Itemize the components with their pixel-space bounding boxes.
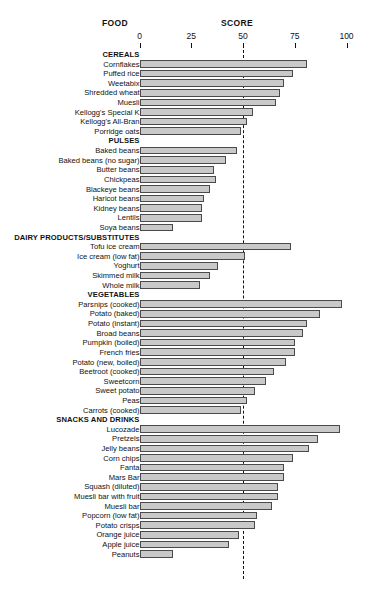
bar-row: Beetroot (cooked) bbox=[0, 367, 371, 377]
bar bbox=[140, 300, 343, 308]
bar-label: French fries bbox=[99, 348, 139, 358]
bar-row: Porridge oats bbox=[0, 127, 371, 137]
bar-row: Skimmed milk bbox=[0, 271, 371, 281]
x-axis-tick-label: 25 bbox=[187, 31, 196, 41]
bar bbox=[140, 262, 219, 270]
group-label: VEGETABLES bbox=[88, 290, 140, 300]
bar-label: Potato (new, boiled) bbox=[72, 358, 139, 368]
bar bbox=[140, 320, 308, 328]
bar bbox=[140, 281, 200, 289]
bar-label: Porridge oats bbox=[94, 127, 139, 137]
bar-row: Potato crisps bbox=[0, 521, 371, 531]
bar bbox=[140, 214, 202, 222]
bar-label: Blackeye beans bbox=[86, 185, 140, 195]
bar-label: Ice cream (low fat) bbox=[77, 252, 139, 262]
bar-row: Sweetcorn bbox=[0, 377, 371, 387]
bar-label: Skimmed milk bbox=[92, 271, 139, 281]
bar-row: Whole milk bbox=[0, 281, 371, 291]
bar bbox=[140, 176, 217, 184]
bar-label: Parsnips (cooked) bbox=[78, 300, 139, 310]
bar bbox=[140, 435, 318, 443]
bar-label: Squash (diluted) bbox=[84, 482, 139, 492]
bar-row: Jelly beans bbox=[0, 444, 371, 454]
bar-label: Sweet potato bbox=[95, 386, 139, 396]
bar bbox=[140, 348, 295, 356]
bar bbox=[140, 60, 308, 68]
bar-row: Pumpkin (boiled) bbox=[0, 338, 371, 348]
bar bbox=[140, 127, 241, 135]
bar-label: Muesli bbox=[118, 98, 140, 108]
group-header-row: VEGETABLES bbox=[0, 290, 371, 300]
x-axis-tick-label: 50 bbox=[238, 31, 247, 41]
bar bbox=[140, 339, 295, 347]
bar-label: Fanta bbox=[120, 463, 139, 473]
bar-label: Orange juice bbox=[96, 530, 139, 540]
bar bbox=[140, 166, 215, 174]
group-label: DAIRY PRODUCTS/SUBSTITUTES bbox=[14, 233, 139, 243]
bar-row: Tofu ice cream bbox=[0, 242, 371, 252]
bar-row: Soya beans bbox=[0, 223, 371, 233]
bar-label: Kidney beans bbox=[93, 204, 139, 214]
bar bbox=[140, 445, 310, 453]
bar-label: Potato crisps bbox=[96, 521, 140, 531]
bar-row: Corn chips bbox=[0, 454, 371, 464]
bar bbox=[140, 541, 229, 549]
bar-row: Lentils bbox=[0, 213, 371, 223]
x-axis-tick-mark bbox=[243, 43, 244, 48]
bar-label: Weetabix bbox=[108, 79, 140, 89]
bar bbox=[140, 118, 248, 126]
bar-row: Shredded wheat bbox=[0, 88, 371, 98]
bar bbox=[140, 79, 285, 87]
group-label: SNACKS AND DRINKS bbox=[56, 415, 139, 425]
bar-row: Haricot beans bbox=[0, 194, 371, 204]
bar-row: Muesli bar bbox=[0, 502, 371, 512]
x-axis-tick-mark bbox=[140, 43, 141, 48]
bar-row: Kidney beans bbox=[0, 204, 371, 214]
bar-row: Ice cream (low fat) bbox=[0, 252, 371, 262]
score-column-header: SCORE bbox=[207, 18, 267, 28]
bar bbox=[140, 425, 341, 433]
bar-row: Cornflakes bbox=[0, 60, 371, 70]
x-axis-tick-mark bbox=[295, 43, 296, 48]
bar-label: Chickpeas bbox=[104, 175, 139, 185]
bar-row: Pretzels bbox=[0, 434, 371, 444]
bar-label: Butter beans bbox=[96, 165, 139, 175]
bar-label: Popcorn (low fat) bbox=[82, 511, 139, 521]
bar bbox=[140, 224, 173, 232]
bar-row: Baked beans bbox=[0, 146, 371, 156]
bar bbox=[140, 454, 293, 462]
bar-label: Jelly beans bbox=[102, 444, 140, 454]
group-header-row: DAIRY PRODUCTS/SUBSTITUTES bbox=[0, 233, 371, 243]
x-axis-tick-mark bbox=[191, 43, 192, 48]
bar bbox=[140, 377, 266, 385]
bar-label: Muesli bar with fruit bbox=[74, 492, 139, 502]
bar bbox=[140, 272, 210, 280]
bar-label: Corn chips bbox=[103, 454, 139, 464]
bar-label: Shredded wheat bbox=[84, 88, 139, 98]
bar bbox=[140, 473, 285, 481]
bar-row: Sweet potato bbox=[0, 386, 371, 396]
bar bbox=[140, 550, 173, 558]
bar-label: Tofu ice cream bbox=[90, 242, 139, 252]
bar bbox=[140, 329, 304, 337]
bar-label: Baked beans bbox=[95, 146, 139, 156]
bar-label: Cornflakes bbox=[103, 60, 139, 70]
bar-row: Muesli bar with fruit bbox=[0, 492, 371, 502]
bar-row: Kellogg's Special K bbox=[0, 108, 371, 118]
bar-row: Squash (diluted) bbox=[0, 482, 371, 492]
bar bbox=[140, 368, 275, 376]
bar bbox=[140, 310, 320, 318]
bar bbox=[140, 397, 248, 405]
bar-label: Beetroot (cooked) bbox=[79, 367, 139, 377]
bar bbox=[140, 252, 246, 260]
bar bbox=[140, 512, 258, 520]
bar bbox=[140, 464, 285, 472]
bar bbox=[140, 108, 254, 116]
bar-row: Lucozade bbox=[0, 425, 371, 435]
bar bbox=[140, 531, 239, 539]
group-label: PULSES bbox=[109, 136, 140, 146]
bar-row: Fanta bbox=[0, 463, 371, 473]
bar-row: Potato (instant) bbox=[0, 319, 371, 329]
bar bbox=[140, 204, 202, 212]
bar bbox=[140, 185, 210, 193]
